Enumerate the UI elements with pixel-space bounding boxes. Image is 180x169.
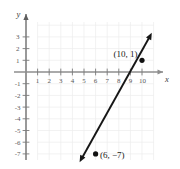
y-tick-label: -4 xyxy=(15,115,21,123)
y-tick-label: 1 xyxy=(16,57,20,65)
data-point-label-6-neg7: (6, −7) xyxy=(100,150,125,160)
x-axis-label: x xyxy=(164,74,169,84)
x-axis-arrowhead-icon xyxy=(158,70,164,75)
y-tick-label: 2 xyxy=(16,45,20,53)
data-point-marker-6-neg7[interactable] xyxy=(93,151,98,156)
graph-figure: 1 2 3 4 5 6 7 8 9 10 3 2 1 xyxy=(0,0,180,169)
y-axis-tick-labels: 3 2 1 -1 -2 -3 -4 -5 -6 -7 xyxy=(15,33,21,158)
y-tick-label: -7 xyxy=(15,150,21,158)
coordinate-plane-svg: 1 2 3 4 5 6 7 8 9 10 3 2 1 xyxy=(0,0,180,169)
data-point-marker-10-1[interactable] xyxy=(139,58,144,63)
y-axis-arrowhead-icon xyxy=(23,14,28,20)
x-tick-label: 10 xyxy=(139,77,147,85)
y-tick-label: -1 xyxy=(15,80,21,88)
x-tick-label: 1 xyxy=(36,77,40,85)
x-tick-label: 9 xyxy=(129,77,133,85)
x-tick-label: 6 xyxy=(94,77,98,85)
x-tick-label: 5 xyxy=(82,77,86,85)
x-tick-label: 3 xyxy=(59,77,63,85)
y-tick-label: -2 xyxy=(15,92,21,100)
x-tick-label: 7 xyxy=(105,77,109,85)
axis-lines xyxy=(14,14,163,160)
x-tick-label: 2 xyxy=(47,77,51,85)
y-tick-label: -6 xyxy=(15,139,21,147)
y-tick-label: 3 xyxy=(16,33,20,41)
data-point-label-10-1: (10, 1) xyxy=(114,49,138,59)
y-tick-label: -3 xyxy=(15,104,21,112)
x-tick-label: 8 xyxy=(117,77,121,85)
grid-lines xyxy=(38,22,154,160)
x-axis-tick-labels: 1 2 3 4 5 6 7 8 9 10 xyxy=(36,77,147,85)
x-tick-label: 4 xyxy=(71,77,75,85)
y-tick-label: -5 xyxy=(15,127,21,135)
y-axis-label: y xyxy=(16,9,21,19)
